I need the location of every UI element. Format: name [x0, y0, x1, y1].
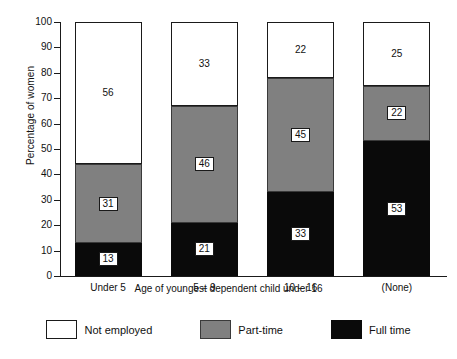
y-axis-tick-label: 90: [22, 41, 52, 52]
bar-segment-value-label: 13: [99, 252, 118, 266]
bar-segment: 46: [171, 106, 238, 223]
legend-label: Full time: [369, 324, 411, 336]
bar-segment-value-label: 53: [387, 202, 406, 216]
y-axis-tick: [54, 73, 60, 74]
y-axis-tick-label: 10: [22, 245, 52, 256]
bar-segment: 25: [363, 22, 430, 86]
bar-segment-value-label: 25: [391, 49, 402, 59]
y-axis-tick-label: 60: [22, 118, 52, 129]
bar-segment: 31: [75, 164, 142, 243]
bar-segment-value-label: 46: [195, 157, 214, 171]
legend-item: Part-time: [200, 320, 283, 339]
bar-segment-value-label: 21: [195, 242, 214, 256]
y-axis-tick: [54, 251, 60, 252]
stacked-bar-chart: Percentage of women 01020304050607080901…: [0, 0, 457, 359]
y-axis-line: [60, 22, 61, 276]
y-axis-tick: [54, 149, 60, 150]
y-axis-tick: [54, 276, 60, 277]
bar-segment: 21: [171, 223, 238, 276]
bar: 214633: [171, 22, 238, 276]
y-axis-tick-label: 50: [22, 143, 52, 154]
chart-legend: Not employedPart-timeFull time: [0, 320, 457, 339]
bar-segment-value-label: 22: [295, 45, 306, 55]
bar: 133156: [75, 22, 142, 276]
bar-segment-value-label: 31: [99, 197, 118, 211]
plot-area: 0102030405060708090100 13315621463333452…: [60, 22, 445, 276]
bar-segment: 53: [363, 141, 430, 276]
legend-label: Part-time: [238, 324, 283, 336]
y-axis-tick-label: 20: [22, 219, 52, 230]
bar-segment-value-label: 33: [199, 59, 210, 69]
y-axis-tick-label: 70: [22, 92, 52, 103]
bar: 334522: [267, 22, 334, 276]
bar-segment: 56: [75, 22, 142, 164]
bar-segment: 13: [75, 243, 142, 276]
y-axis-tick-label: 100: [22, 16, 52, 27]
y-axis-tick: [54, 124, 60, 125]
bar: 532225: [363, 22, 430, 276]
legend-swatch-icon: [200, 320, 231, 339]
bar-segment-value-label: 22: [387, 106, 406, 120]
y-axis-tick: [54, 174, 60, 175]
y-axis-tick: [54, 225, 60, 226]
legend-label: Not employed: [84, 324, 152, 336]
x-axis-title: Age of youngest dependent child under 16: [0, 283, 457, 294]
y-axis-tick-label: 80: [22, 67, 52, 78]
bar-segment-value-label: 33: [291, 227, 310, 241]
y-axis-tick: [54, 200, 60, 201]
x-axis-line: [60, 276, 447, 277]
bar-segment-value-label: 56: [103, 88, 114, 98]
bar-segment: 22: [363, 86, 430, 142]
y-axis-tick: [54, 22, 60, 23]
legend-item: Full time: [331, 320, 411, 339]
legend-swatch-icon: [331, 320, 362, 339]
y-axis-tick-label: 30: [22, 194, 52, 205]
y-axis-tick-label: 0: [22, 270, 52, 281]
y-axis-tick: [54, 47, 60, 48]
y-axis-tick: [54, 98, 60, 99]
bar-segment: 33: [267, 192, 334, 276]
bar-segment: 33: [171, 22, 238, 106]
y-axis-tick-label: 40: [22, 168, 52, 179]
legend-swatch-icon: [46, 320, 77, 339]
bar-segment-value-label: 45: [291, 128, 310, 142]
bar-segment: 22: [267, 22, 334, 78]
bar-segment: 45: [267, 78, 334, 192]
legend-item: Not employed: [46, 320, 152, 339]
